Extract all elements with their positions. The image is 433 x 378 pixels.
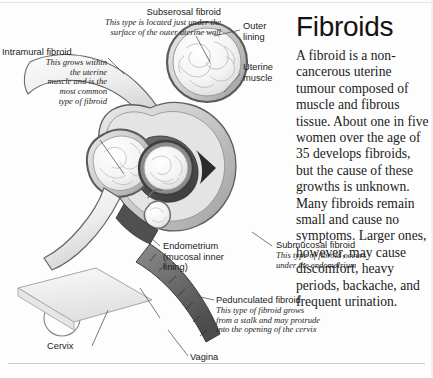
label-vagina: Vagina — [190, 352, 234, 363]
page-canvas: Subserosal fibroid This type is located … — [0, 0, 433, 378]
leader-submucosal — [252, 232, 272, 246]
article-text-column: Fibroids A fibroid is a non-cancerous ut… — [296, 12, 430, 311]
leader-vagina — [168, 330, 188, 356]
label-title: Vagina — [190, 352, 234, 363]
label-cervix: Cervix — [47, 341, 87, 352]
label-title: Intramural fibroid — [2, 47, 107, 58]
label-title: Cervix — [47, 341, 87, 352]
label-title: Subserosal fibroid — [46, 7, 221, 18]
page-title: Fibroids — [296, 12, 430, 42]
label-outer-lining: Outer lining — [243, 21, 295, 42]
label-title: Endometrium (mucosal inner lining) — [163, 241, 243, 273]
label-title: Outer lining — [243, 21, 295, 42]
label-title: Uterine muscle — [243, 62, 295, 83]
label-description: This type is located just under the surf… — [46, 18, 221, 38]
label-subserosal-fibroid: Subserosal fibroid This type is located … — [46, 7, 221, 37]
submucosal-fibroid-mass — [139, 141, 193, 195]
label-endometrium: Endometrium (mucosal inner lining) — [163, 241, 243, 273]
cervix-body — [44, 188, 120, 270]
section-plane — [18, 268, 152, 330]
article-body: A fibroid is a non-cancerous uterine tum… — [296, 48, 430, 311]
label-uterine-muscle: Uterine muscle — [243, 62, 295, 83]
label-intramural-fibroid: Intramural fibroid This grows within the… — [2, 47, 107, 107]
label-description: This grows within the uterine muscle and… — [2, 58, 107, 108]
